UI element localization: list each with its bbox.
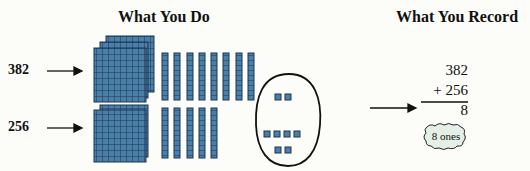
ones-group-circle	[256, 74, 320, 166]
addend-256: + 256	[418, 82, 468, 99]
tens-rods-382	[162, 53, 254, 100]
hundreds-flats-382	[94, 36, 154, 102]
tens-rods-256	[162, 108, 217, 158]
sum-result: 8	[428, 102, 468, 119]
addend-382: 382	[428, 62, 468, 79]
hundreds-flats-256	[94, 105, 148, 162]
cloud-note: 8 ones	[425, 127, 467, 145]
